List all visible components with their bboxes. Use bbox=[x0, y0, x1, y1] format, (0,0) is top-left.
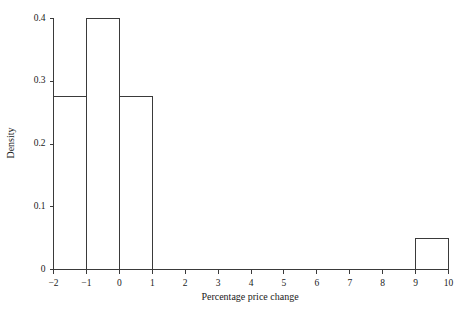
plot-area bbox=[0, 0, 467, 312]
x-tick-label: 9 bbox=[413, 279, 418, 289]
histogram-bar bbox=[86, 19, 119, 270]
x-tick-label: 7 bbox=[347, 279, 352, 289]
x-tick-label: 3 bbox=[216, 279, 221, 289]
histogram-bar bbox=[416, 238, 449, 269]
x-tick-label: 10 bbox=[444, 279, 454, 289]
histogram-bars bbox=[54, 19, 449, 270]
x-tick-label: 5 bbox=[282, 279, 287, 289]
x-tick-label: 4 bbox=[249, 279, 254, 289]
x-tick-label: 6 bbox=[314, 279, 319, 289]
x-tick-label: 2 bbox=[183, 279, 188, 289]
x-tick-label: 0 bbox=[117, 279, 122, 289]
histogram-bar bbox=[54, 97, 87, 270]
histogram-bar bbox=[119, 97, 152, 270]
x-tick-label: −2 bbox=[48, 279, 58, 289]
histogram-figure: 00.10.20.30.4 −2−1012345678910 Percentag… bbox=[0, 0, 467, 312]
x-tick-label: −1 bbox=[81, 279, 91, 289]
y-tick-label: 0.1 bbox=[0, 202, 46, 212]
x-tick-label: 1 bbox=[150, 279, 155, 289]
y-axis-title: Density bbox=[6, 127, 16, 158]
x-tick-label: 8 bbox=[380, 279, 385, 289]
y-tick-label: 0.4 bbox=[0, 14, 46, 24]
y-tick-label: 0.3 bbox=[0, 77, 46, 87]
x-axis-title: Percentage price change bbox=[201, 292, 298, 302]
y-tick-label: 0 bbox=[0, 265, 46, 275]
